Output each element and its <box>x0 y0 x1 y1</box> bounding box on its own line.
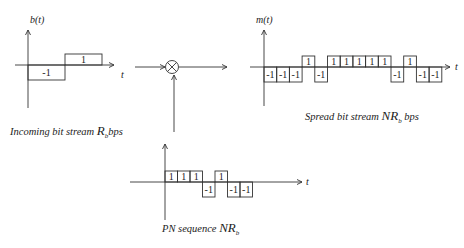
incoming-bit-boxes: -11 <box>28 54 102 80</box>
bit-label: 1 <box>369 56 374 67</box>
bit-label: 1 <box>331 56 336 67</box>
bit-label: 1 <box>194 171 199 182</box>
bit-label: 1 <box>344 56 349 67</box>
b-t-axis-label: b(t) <box>30 14 45 26</box>
bit-label: 1 <box>382 56 387 67</box>
spread-bit-stream-plot: m(t) t -1-1-11-111111-11-1-1 <box>250 14 458 106</box>
bit-label: -1 <box>393 69 401 80</box>
bit-label: -1 <box>205 184 213 195</box>
bit-label: 1 <box>306 56 311 67</box>
spread-bit-boxes: -1-1-11-111111-11-1-1 <box>264 56 442 82</box>
multiply-circle-icon <box>166 61 179 74</box>
bit-label: 1 <box>169 171 174 182</box>
pn-caption: PN sequence NRb <box>161 220 240 237</box>
bit-label: 1 <box>357 56 362 67</box>
spread-caption: Spread bit stream NRb bps <box>305 108 419 125</box>
bit-label: -1 <box>317 69 325 80</box>
bit-label: -1 <box>242 184 250 195</box>
bit-label: -1 <box>279 69 287 80</box>
bit-label: -1 <box>266 69 274 80</box>
bit-label: -1 <box>431 69 439 80</box>
bit-label: 1 <box>81 54 86 65</box>
pn-sequence-plot: t 111-11-1-1 <box>130 144 309 220</box>
incoming-caption: Incoming bit stream Rbbps <box>9 123 123 140</box>
m-t-time-label: t <box>455 61 458 72</box>
bit-label: 1 <box>181 171 186 182</box>
m-t-axis-label: m(t) <box>256 14 273 26</box>
b-t-time-label: t <box>121 69 124 80</box>
multiplier-block <box>135 61 227 133</box>
bit-label: -1 <box>292 69 300 80</box>
dsss-diagram: b(t) t -11 Incoming bit stream Rbbps m(t… <box>0 0 464 248</box>
bit-label: -1 <box>42 67 50 78</box>
pn-time-label: t <box>306 176 309 187</box>
pn-bit-boxes: 111-11-1-1 <box>165 171 253 197</box>
bit-label: -1 <box>230 184 238 195</box>
bit-label: 1 <box>219 171 224 182</box>
bit-label: 1 <box>408 56 413 67</box>
bit-label: -1 <box>419 69 427 80</box>
incoming-bit-stream-plot: b(t) t -11 <box>15 14 124 108</box>
